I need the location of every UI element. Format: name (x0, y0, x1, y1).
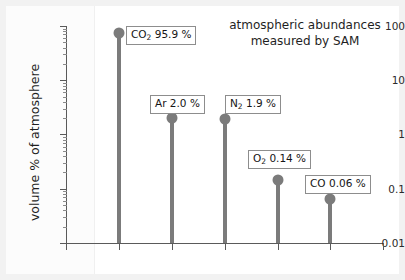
y-tick-minor (63, 54, 67, 55)
data-label-co: CO 0.06 % (305, 175, 371, 194)
x-tick-3 (225, 243, 226, 250)
y-tick-label-1: 1 (347, 129, 405, 140)
y-tick-minor (63, 137, 67, 138)
y-tick-major-0.1 (60, 189, 67, 190)
y-tick-minor (63, 205, 67, 206)
stem-o2 (276, 180, 280, 243)
stem-ar (170, 118, 174, 243)
y-tick-minor (63, 191, 67, 192)
y-tick-minor (63, 156, 67, 157)
y-tick-minor (63, 151, 67, 152)
data-label-n2-subscript: 2 (238, 102, 243, 111)
y-tick-minor (63, 42, 67, 43)
stem-n2 (223, 119, 227, 243)
y-tick-minor (63, 89, 67, 90)
y-axis-label: volume % of atmosphere (27, 33, 42, 253)
data-label-co2: CO2 95.9 % (126, 26, 196, 45)
y-tick-minor (63, 92, 67, 93)
y-tick-minor (63, 48, 67, 49)
y-tick-minor (63, 210, 67, 211)
y-tick-minor (63, 102, 67, 103)
data-label-co2-species: CO (131, 28, 147, 40)
data-label-ar-species: Ar (155, 97, 167, 109)
data-label-co-species: CO (310, 177, 326, 189)
y-tick-minor (63, 83, 67, 84)
x-tick-5 (330, 243, 331, 250)
marker-co2[interactable] (114, 28, 125, 39)
y-tick-minor (63, 118, 67, 119)
y-tick-minor (63, 109, 67, 110)
data-label-n2-value: 1.9 % (246, 97, 276, 109)
y-tick-minor (63, 143, 67, 144)
y-tick-minor (63, 97, 67, 98)
y-tick-minor (63, 64, 67, 65)
data-label-n2-species: N (230, 97, 238, 109)
y-tick-minor (63, 227, 67, 228)
y-tick-major-1 (60, 134, 67, 135)
y-tick-minor (63, 147, 67, 148)
y-tick-minor (63, 172, 67, 173)
data-label-o2: O2 0.14 % (248, 150, 311, 169)
y-tick-minor (63, 29, 67, 30)
y-tick-minor (63, 86, 67, 87)
stem-co2 (117, 33, 121, 243)
marker-co[interactable] (325, 194, 336, 205)
x-tick-2 (172, 243, 173, 250)
x-tick-6 (383, 243, 384, 250)
data-label-co2-value: 95.9 % (155, 28, 192, 40)
y-tick-label-100: 100 (347, 21, 405, 32)
y-tick-minor (63, 31, 67, 32)
y-tick-label-10: 10 (347, 75, 405, 86)
marker-n2[interactable] (220, 114, 231, 125)
y-tick-minor (63, 217, 67, 218)
data-label-o2-value: 0.14 % (269, 152, 306, 164)
y-tick-minor (63, 201, 67, 202)
data-label-co2-subscript: 2 (147, 33, 152, 42)
data-label-ar-value: 2.0 % (170, 97, 200, 109)
marker-o2[interactable] (273, 175, 284, 186)
y-tick-minor (63, 197, 67, 198)
data-label-co-value: 0.06 % (329, 177, 366, 189)
stem-co (328, 199, 332, 243)
y-tick-minor (63, 38, 67, 39)
y-tick-minor (63, 34, 67, 35)
y-axis-line (66, 26, 67, 244)
y-tick-label-0.01: 0.01 (347, 238, 405, 249)
x-tick-4 (278, 243, 279, 250)
chart-title-line-2: measured by SAM (210, 33, 400, 49)
data-label-n2: N2 1.9 % (225, 95, 281, 114)
y-tick-minor (63, 194, 67, 195)
x-tick-0 (66, 243, 67, 250)
data-label-ar: Ar 2.0 % (150, 95, 205, 114)
background-band (6, 6, 95, 274)
x-tick-1 (119, 243, 120, 250)
y-tick-minor (63, 140, 67, 141)
y-tick-minor (63, 163, 67, 164)
y-tick-major-10 (60, 80, 67, 81)
y-tick-major-100 (60, 26, 67, 27)
data-label-o2-subscript: 2 (261, 157, 266, 166)
chart-figure: atmospheric abundances measured by SAM v… (0, 0, 405, 280)
